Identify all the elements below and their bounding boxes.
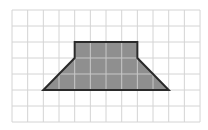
grid-diagram	[0, 0, 208, 130]
